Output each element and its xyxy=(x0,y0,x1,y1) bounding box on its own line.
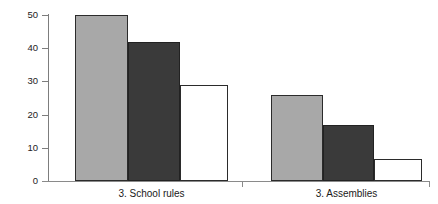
category-label-school-rules: 3. School rules xyxy=(75,188,228,199)
y-axis-tick-label: 50 xyxy=(12,10,38,20)
x-axis-group-tick xyxy=(242,181,243,187)
y-axis-tick-label: 10 xyxy=(12,143,38,153)
bar xyxy=(128,42,180,181)
bar xyxy=(180,85,228,181)
x-axis-end-tick xyxy=(429,181,430,187)
category-label-assemblies: 3. Assemblies xyxy=(271,188,422,199)
bar xyxy=(374,159,422,181)
y-axis-tick-label: 20 xyxy=(12,110,38,120)
y-axis-tick-label: 0 xyxy=(12,176,38,186)
bar xyxy=(271,95,323,181)
bar xyxy=(323,125,374,181)
bar-chart: % 'yes' replies 01020304050 3. School ru… xyxy=(0,0,438,204)
x-axis-line xyxy=(42,181,430,182)
y-axis-tick-label: 30 xyxy=(12,76,38,86)
y-axis-tick-label: 40 xyxy=(12,43,38,53)
bar xyxy=(75,15,128,181)
plot-area xyxy=(48,15,425,181)
